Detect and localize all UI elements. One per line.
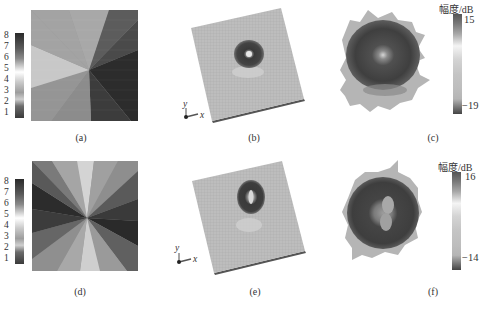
phase-colorbar xyxy=(15,179,24,264)
axis-x-label: x xyxy=(200,111,204,121)
tick-label: 3 xyxy=(4,86,9,96)
side-lobe xyxy=(236,218,262,232)
amplitude-colorbar xyxy=(452,172,461,270)
caption-f: (f) xyxy=(428,286,438,297)
metasurface-3d-view xyxy=(170,150,320,309)
caption-a: (a) xyxy=(75,132,86,143)
tick-label: 3 xyxy=(4,232,9,242)
tick-label: 4 xyxy=(4,75,9,85)
tick-label: 5 xyxy=(4,64,9,74)
colorbar-min-label: −19 xyxy=(462,101,478,112)
caption-b: (b) xyxy=(248,132,260,143)
caption-d: (d) xyxy=(74,286,86,297)
tick-label: 6 xyxy=(4,53,9,63)
colorbar-max-label: 16 xyxy=(465,172,476,183)
caption-c: (c) xyxy=(427,132,438,143)
main-lobe xyxy=(346,20,420,90)
tick-label: 2 xyxy=(4,243,9,253)
tick-label: 8 xyxy=(4,177,9,187)
colorbar-max-label: 15 xyxy=(464,15,475,26)
tick-label: 8 xyxy=(4,31,9,41)
panel-b: y x (b) xyxy=(170,0,320,150)
tick-label: 1 xyxy=(4,254,9,264)
panel-c: 幅度/dB 15 −19 (c) xyxy=(320,0,487,150)
panel-d: 8 7 6 5 4 3 2 1 xyxy=(0,150,170,309)
phase-map-vortex-1 xyxy=(31,10,138,121)
amplitude-colorbar xyxy=(453,14,462,114)
axis-x-label: x xyxy=(193,255,197,265)
axis-y-label: y xyxy=(175,244,179,254)
panel-f: 幅度/dB 16 −14 (f) xyxy=(320,150,487,309)
tick-label: 1 xyxy=(4,108,9,118)
main-lobe xyxy=(347,177,419,249)
axis-y-label: y xyxy=(183,100,187,110)
tick-label: 2 xyxy=(4,97,9,107)
panel-a: 8 7 6 5 4 3 2 1 (a) xyxy=(0,0,170,150)
phase-map-vortex-2 xyxy=(32,161,138,271)
colorbar-min-label: −14 xyxy=(462,253,478,264)
tick-label: 5 xyxy=(4,210,9,220)
tick-label: 4 xyxy=(4,221,9,231)
far-field-amplitude-pattern xyxy=(320,150,450,280)
tick-label: 7 xyxy=(4,42,9,52)
far-field-amplitude-pattern xyxy=(320,0,450,130)
metasurface-3d-view xyxy=(170,0,320,150)
phase-colorbar xyxy=(15,33,24,118)
tick-label: 6 xyxy=(4,199,9,209)
panel-e: y x (e) xyxy=(170,150,320,309)
tick-label: 7 xyxy=(4,188,9,198)
caption-e: (e) xyxy=(249,286,260,297)
